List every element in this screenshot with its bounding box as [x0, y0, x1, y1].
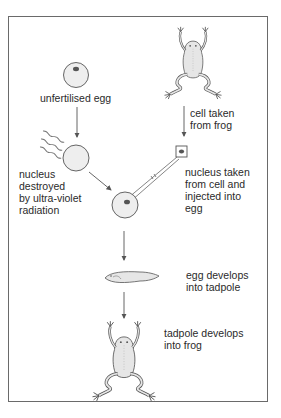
tadpole-icon [105, 272, 159, 283]
ultra-violet-rays-icon [40, 130, 65, 159]
label-unfertilised-egg: unfertilised egg [40, 92, 111, 104]
cloned-frog-icon [93, 321, 156, 401]
label-tadpole-develops: tadpole develops into frog [164, 327, 243, 351]
label-egg-develops: egg develops into tadpole [186, 269, 248, 293]
cloning-diagram: unfertilised egg cell taken from frog nu… [0, 0, 281, 418]
donor-cell-icon [176, 146, 187, 157]
injected-egg-icon [112, 192, 138, 218]
label-nucleus-injected: nucleus taken from cell and injected int… [185, 166, 250, 214]
label-cell-taken: cell taken from frog [190, 107, 234, 131]
micropipette-icon [128, 157, 179, 201]
arrow-enucleated-to-injected [89, 172, 111, 190]
donor-frog-icon [165, 27, 222, 99]
label-nucleus-destroyed: nucleus destroyed by ultra-violet radiat… [19, 168, 81, 216]
unfertilised-egg-icon [64, 63, 89, 88]
